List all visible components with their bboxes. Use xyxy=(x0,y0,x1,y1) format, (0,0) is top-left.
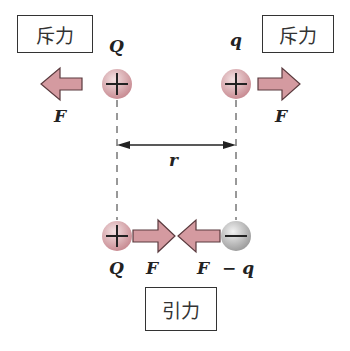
force-arrow-attract-right-icon xyxy=(133,220,175,252)
repulsion-label-right: 斥力 xyxy=(262,15,334,53)
force-arrow-right-icon xyxy=(258,68,300,100)
charge-Q-label-top: Q xyxy=(109,36,124,56)
force-label-bottom-right: F xyxy=(197,258,209,278)
force-label-top-right: F xyxy=(275,106,287,126)
force-label-top-left: F xyxy=(54,106,66,126)
repulsion-label-left: 斥力 xyxy=(17,15,93,53)
charge-neg-q-label: − q xyxy=(222,258,254,278)
force-arrow-attract-left-icon xyxy=(178,220,220,252)
charge-Q-label-bottom: Q xyxy=(109,258,124,278)
distance-arrowhead-left-icon xyxy=(117,141,130,149)
attraction-label: 引力 xyxy=(145,287,217,331)
distance-label: r xyxy=(169,150,178,170)
charge-q-label-top: q xyxy=(230,30,242,50)
force-label-bottom-left: F xyxy=(146,258,158,278)
distance-arrowhead-right-icon xyxy=(223,141,236,149)
force-arrow-left-icon xyxy=(41,68,82,100)
